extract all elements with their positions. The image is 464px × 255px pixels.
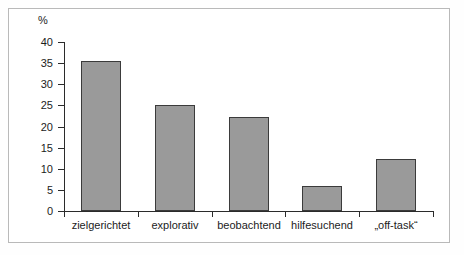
y-axis-tick [58, 105, 64, 106]
y-axis-tick-label: 15 [31, 143, 53, 154]
x-axis-tick [285, 211, 286, 217]
y-axis-tick-label: 25 [31, 100, 53, 111]
y-axis-tick [58, 190, 64, 191]
bar [155, 105, 195, 211]
y-axis-tick-label: 35 [31, 58, 53, 69]
y-axis-tick [58, 63, 64, 64]
y-axis-tick [58, 127, 64, 128]
y-axis-unit-label: % [38, 14, 48, 26]
x-axis-tick [212, 211, 213, 217]
x-axis-tick [138, 211, 139, 217]
y-axis-tick [58, 84, 64, 85]
y-axis-tick [58, 148, 64, 149]
y-axis-tick-label: 10 [31, 164, 53, 175]
x-axis-category-label: „off-task“ [359, 220, 433, 231]
bar [376, 159, 416, 211]
bar [302, 186, 342, 211]
x-axis-category-label: explorativ [138, 220, 212, 231]
bar [229, 117, 269, 211]
y-axis-line [64, 42, 65, 212]
bar [81, 61, 121, 211]
figure-root: % 4035302520151050 zielgerichtetexplorat… [0, 0, 464, 255]
y-axis-tick [58, 42, 64, 43]
bar-chart: % 4035302520151050 zielgerichtetexplorat… [0, 0, 464, 255]
y-axis-tick-label: 0 [31, 206, 53, 217]
x-axis-category-label: zielgerichtet [64, 220, 138, 231]
y-axis-tick [58, 169, 64, 170]
y-axis-tick-label: 20 [31, 122, 53, 133]
y-axis-tick-label: 5 [31, 185, 53, 196]
x-axis-tick [433, 211, 434, 217]
x-axis-tick [359, 211, 360, 217]
x-axis-tick [64, 211, 65, 217]
x-axis-line [64, 211, 433, 212]
y-axis-tick-label: 30 [31, 79, 53, 90]
x-axis-category-label: hilfesuchend [285, 220, 359, 231]
y-axis-tick-label: 40 [31, 37, 53, 48]
x-axis-category-label: beobachtend [212, 220, 286, 231]
